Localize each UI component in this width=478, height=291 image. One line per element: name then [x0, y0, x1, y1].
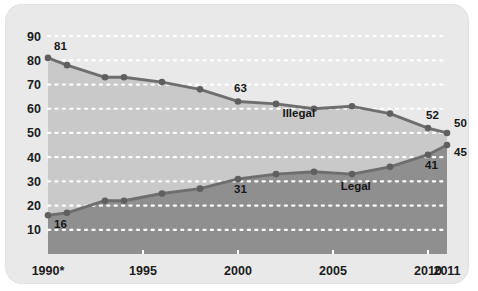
marker-illegal-1996	[159, 79, 166, 86]
marker-legal-2006	[349, 171, 356, 178]
area-bands	[48, 58, 447, 254]
marker-legal-2011	[444, 142, 451, 149]
chart-figure: 102030405060708090 1990*1995200020052010…	[0, 0, 478, 291]
marker-illegal-2000	[235, 98, 242, 105]
marker-legal-2010	[425, 151, 432, 158]
marker-illegal-2002	[273, 101, 280, 108]
x-tick-2005: 2005	[319, 264, 347, 278]
y-tick-70: 70	[27, 78, 41, 92]
marker-legal-2002	[273, 171, 280, 178]
y-tick-90: 90	[27, 30, 41, 44]
y-tick-80: 80	[27, 54, 41, 68]
marker-illegal-1998	[197, 86, 204, 93]
marker-illegal-2010	[425, 125, 432, 132]
marker-illegal-1994	[121, 74, 128, 81]
point-label-illegal-2010: 52	[426, 109, 439, 121]
marker-illegal-2008	[387, 110, 394, 117]
point-label-legal-2000: 31	[234, 183, 247, 195]
point-label-legal-1990: 16	[54, 218, 67, 230]
y-tick-10: 10	[27, 223, 41, 237]
y-tick-40: 40	[27, 151, 41, 165]
marker-legal-1996	[159, 190, 166, 197]
marker-illegal-1990	[45, 55, 52, 62]
area-chart: 102030405060708090 1990*1995200020052010…	[0, 0, 478, 291]
x-tick-1990: 1990*	[32, 264, 65, 278]
marker-illegal-2011	[444, 130, 451, 137]
y-tick-20: 20	[27, 199, 41, 213]
series-label-legal: Legal	[341, 180, 371, 192]
x-tick-2011: 2011	[433, 264, 460, 278]
series-label-illegal: Illegal	[282, 107, 315, 119]
x-tick-1995: 1995	[129, 264, 157, 278]
y-axis-tick-labels: 102030405060708090	[27, 30, 41, 238]
marker-legal-2004	[311, 168, 318, 175]
y-tick-60: 60	[27, 102, 41, 116]
y-tick-30: 30	[27, 175, 41, 189]
marker-legal-2008	[387, 164, 394, 171]
marker-legal-2000	[235, 176, 242, 183]
point-label-legal-2011: 45	[454, 146, 467, 158]
marker-legal-1998	[197, 185, 204, 192]
y-tick-50: 50	[27, 126, 41, 140]
point-label-illegal-2000: 63	[234, 82, 247, 94]
marker-illegal-1991	[64, 62, 71, 69]
marker-illegal-1993	[102, 74, 109, 81]
x-axis-tick-labels: 1990*19952000200520102011	[32, 264, 461, 278]
marker-legal-1991	[64, 210, 71, 217]
x-tick-2000: 2000	[224, 264, 252, 278]
marker-illegal-2006	[349, 103, 356, 110]
point-label-legal-2010: 41	[425, 159, 438, 171]
marker-legal-1990	[45, 212, 52, 219]
marker-legal-1993	[102, 197, 109, 204]
marker-legal-1994	[121, 197, 128, 204]
point-label-illegal-1990: 81	[54, 40, 67, 52]
point-label-illegal-2011: 50	[454, 117, 467, 129]
